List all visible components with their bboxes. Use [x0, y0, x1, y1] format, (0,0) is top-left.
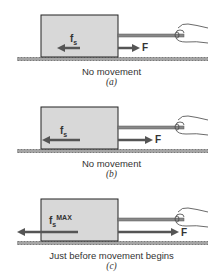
rod	[118, 126, 184, 129]
rod	[118, 218, 184, 221]
force-label: F	[142, 42, 148, 53]
caption: No movement	[0, 158, 223, 169]
caption: Just before movement begins	[0, 250, 223, 261]
force-label: F	[155, 134, 161, 145]
hand-icon	[175, 208, 208, 227]
sublabel: (b)	[0, 169, 223, 179]
panel-b: fs F No movement (b)	[0, 92, 223, 184]
force-arrow	[118, 228, 179, 236]
rod	[118, 34, 184, 37]
force-label: F	[181, 227, 187, 238]
hand-icon	[175, 116, 208, 135]
force-arrow	[118, 136, 153, 144]
force-arrow	[118, 44, 140, 52]
friction-label: fs	[60, 125, 67, 138]
ground	[17, 57, 208, 61]
sublabel: (a)	[0, 77, 223, 87]
block	[41, 15, 118, 57]
panel-a: fs F No movement (a)	[0, 0, 223, 92]
ground	[17, 241, 208, 245]
friction-label: fs	[70, 33, 77, 46]
block	[41, 107, 118, 149]
hand-icon	[175, 24, 208, 43]
friction-label: fsMAX	[49, 214, 72, 228]
ground	[17, 149, 208, 153]
caption: No movement	[0, 66, 223, 77]
panel-c: fsMAX F Just before movement begins (c)	[0, 184, 223, 276]
sublabel: (c)	[0, 261, 223, 271]
